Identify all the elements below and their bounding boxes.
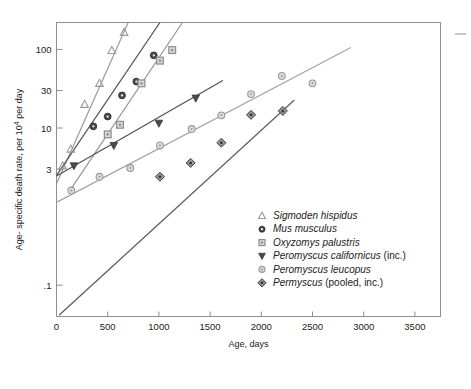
data-point	[96, 173, 103, 180]
series-sigmoden-hispidus	[59, 28, 128, 169]
data-point	[157, 142, 164, 149]
data-point	[309, 80, 316, 87]
legend-label: Oxyzomys palustris	[273, 237, 360, 248]
legend-marker-diamond	[258, 279, 266, 287]
figure-container: 0500100015002000250030003500 .131030100 …	[0, 0, 471, 389]
data-point	[186, 158, 195, 167]
x-tick-label: 1500	[200, 321, 221, 332]
data-point	[188, 126, 195, 133]
data-point	[90, 123, 97, 130]
series-data-points	[59, 28, 316, 194]
legend-marker-triangle-up	[259, 212, 266, 218]
legend-marker-triangle-down	[259, 253, 266, 259]
data-point	[248, 91, 255, 98]
data-point	[104, 113, 111, 120]
x-tick-label: 1000	[148, 321, 169, 332]
legend: Sigmoden hispidusMus musculusOxyzomys pa…	[258, 210, 406, 288]
legend-item: Peromyscus californicus (inc.)	[259, 250, 406, 261]
data-point	[155, 120, 163, 127]
data-point	[104, 131, 111, 138]
data-point	[157, 57, 164, 64]
series-peromyscus-californicus	[70, 95, 199, 170]
y-tick-label: 30	[41, 85, 52, 96]
chart-canvas: 0500100015002000250030003500 .131030100 …	[0, 0, 471, 389]
data-point	[217, 138, 226, 147]
x-tick-label: 2000	[251, 321, 272, 332]
data-point	[155, 172, 164, 181]
plot-frame	[57, 23, 441, 317]
data-point	[81, 100, 89, 107]
data-point	[278, 73, 285, 80]
x-axis: 0500100015002000250030003500	[54, 312, 426, 332]
data-point	[110, 142, 118, 149]
legend-item: Oxyzomys palustris	[259, 237, 360, 248]
x-tick-label: 500	[100, 321, 116, 332]
legend-label: Peromyscus californicus (inc.)	[273, 250, 406, 261]
series-mus-musculus	[90, 52, 157, 130]
legend-label: Sigmoden hispidus	[273, 210, 358, 221]
legend-marker-circle-filled	[259, 226, 265, 232]
data-point	[117, 121, 124, 128]
data-point	[70, 163, 78, 170]
legend-item: Mus musculus	[259, 223, 337, 234]
legend-item: Permyscus (pooled, inc.)	[258, 277, 383, 288]
y-tick-label: 10	[41, 123, 52, 134]
y-tick-label: 3	[46, 164, 51, 175]
data-point	[68, 187, 75, 194]
data-point	[192, 95, 200, 102]
legend-marker-circle-open	[259, 266, 265, 272]
x-axis-title: Age, days	[228, 339, 269, 349]
data-point	[127, 165, 134, 172]
y-axis: .131030100	[36, 44, 63, 291]
y-tick-label: .1	[44, 280, 52, 291]
data-point	[138, 80, 145, 87]
y-axis-title: Age- specific death rate, per 104 per da…	[13, 88, 25, 250]
x-tick-label: 2500	[302, 321, 323, 332]
y-tick-label: 100	[36, 44, 52, 55]
data-point	[108, 46, 116, 53]
x-tick-label: 0	[54, 321, 59, 332]
legend-item: Peromyscus leucopus	[259, 264, 371, 275]
data-point	[119, 92, 126, 99]
legend-label: Permyscus (pooled, inc.)	[273, 277, 383, 288]
legend-marker-square	[259, 240, 265, 246]
data-point	[218, 112, 225, 119]
data-point	[169, 47, 176, 54]
legend-label: Mus musculus	[273, 223, 337, 234]
x-tick-label: 3000	[353, 321, 374, 332]
legend-item: Sigmoden hispidus	[259, 210, 358, 221]
x-tick-label: 3500	[404, 321, 425, 332]
legend-label: Peromyscus leucopus	[273, 264, 371, 275]
data-point	[247, 110, 256, 119]
